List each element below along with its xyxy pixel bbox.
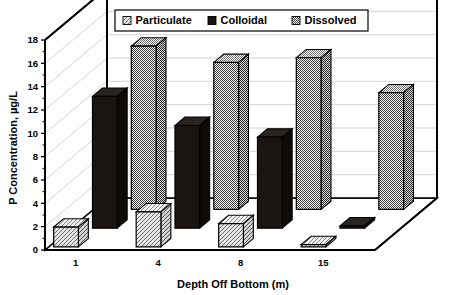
bar-dissolved-15 [379,84,414,209]
bar-colloidal-4 [175,117,210,228]
y-tick-label: 18 [27,34,38,45]
bar-front-face [301,245,326,247]
bar-side-face [239,54,249,209]
y-tick-label: 10 [27,128,38,139]
bar-front-face [214,62,239,209]
y-tick-label: 0 [33,244,38,255]
bar-front-face [175,125,200,228]
legend-label-colloidal: Colloidal [221,14,267,26]
x-axis-title: Depth Off Bottom (m) [177,278,289,290]
bar-side-face [404,84,414,209]
bar-front-face [257,137,282,228]
bar-side-face [321,49,331,209]
bar-front-face [131,46,156,209]
bar-colloidal-1 [92,88,127,228]
bar-side-face [200,117,210,228]
y-tick-label: 16 [27,58,38,69]
bar-dissolved-8 [296,49,331,209]
chart-legend: ParticulateColloidalDissolved [115,10,368,31]
x-tick-label: 8 [238,257,243,268]
bar-colloidal-8 [257,129,292,228]
y-axis-title: P Concentration, µg/L [7,91,19,205]
chart-root: 181614121086420 14815 P Concentration, µ… [0,0,456,295]
bar-particulate-4 [136,204,171,247]
x-tick-label: 1 [73,257,79,268]
y-tick-label: 4 [33,198,39,209]
y-tick-label: 8 [33,151,38,162]
x-tick-label: 4 [156,257,162,268]
bar-front-face [379,93,404,210]
x-tick-label: 15 [318,257,329,268]
y-tick-label: 2 [33,221,38,232]
y-tick-label: 12 [27,104,38,115]
bar-particulate-1 [54,219,89,247]
bar-chart-3d: 181614121086420 14815 P Concentration, µ… [0,0,456,295]
bar-front-face [54,227,79,247]
legend-label-dissolved: Dissolved [305,14,357,26]
bar-side-face [117,88,127,228]
bar-dissolved-4 [214,54,249,209]
legend-swatch-particulate [123,17,131,25]
bar-side-face [282,129,292,228]
bar-side-face [156,38,166,210]
plot-area [41,0,437,250]
y-tick-label: 14 [27,81,38,92]
legend-swatch-dissolved [292,17,300,25]
bar-front-face [136,212,161,247]
bar-front-face [92,96,117,228]
bar-side-face [161,204,171,247]
legend-label-particulate: Particulate [136,14,192,26]
bar-front-face [296,58,321,210]
bar-front-face [219,224,244,247]
bar-dissolved-1 [131,38,166,210]
bar-front-face [340,226,365,228]
legend-swatch-colloidal [208,17,216,25]
bar-particulate-8 [219,215,254,247]
y-tick-label: 6 [33,174,38,185]
